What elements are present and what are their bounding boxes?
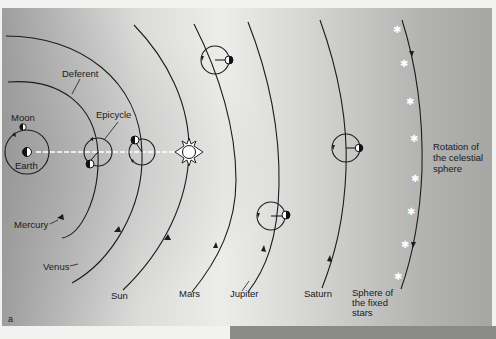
label-rotation-line1: Rotation of (433, 141, 479, 152)
label-earth: Earth (15, 160, 38, 171)
earth-icon (23, 148, 32, 157)
panel-label: a (8, 314, 13, 324)
label-mercury: Mercury (14, 219, 49, 230)
label-jupiter: Jupiter (230, 288, 259, 299)
label-sun: Sun (111, 290, 128, 301)
label-sphere-fixed-stars-line3: stars (352, 307, 373, 318)
label-rotation-line2: the celestial (433, 152, 483, 163)
star-icon: ✱ (394, 271, 402, 282)
label-moon: Moon (11, 112, 35, 123)
label-rotation-line3: sphere (433, 163, 462, 174)
star-icon: ✱ (407, 206, 415, 217)
label-deferent: Deferent (62, 68, 99, 79)
label-venus: Venus (43, 261, 70, 272)
moon-icon (20, 124, 26, 130)
label-mars: Mars (179, 288, 200, 299)
star-icon: ✱ (400, 58, 408, 69)
star-icon: ✱ (411, 173, 419, 184)
geocentric-model-diagram: ✱ ✱ ✱ ✱ ✱ ✱ ✱ ✱ Deferent Epicycle Moon E… (0, 0, 496, 339)
star-icon: ✱ (406, 96, 414, 107)
star-icon: ✱ (410, 133, 418, 144)
label-epicycle: Epicycle (96, 109, 131, 120)
star-icon: ✱ (393, 24, 401, 35)
label-saturn: Saturn (304, 288, 332, 299)
star-icon: ✱ (401, 239, 409, 250)
